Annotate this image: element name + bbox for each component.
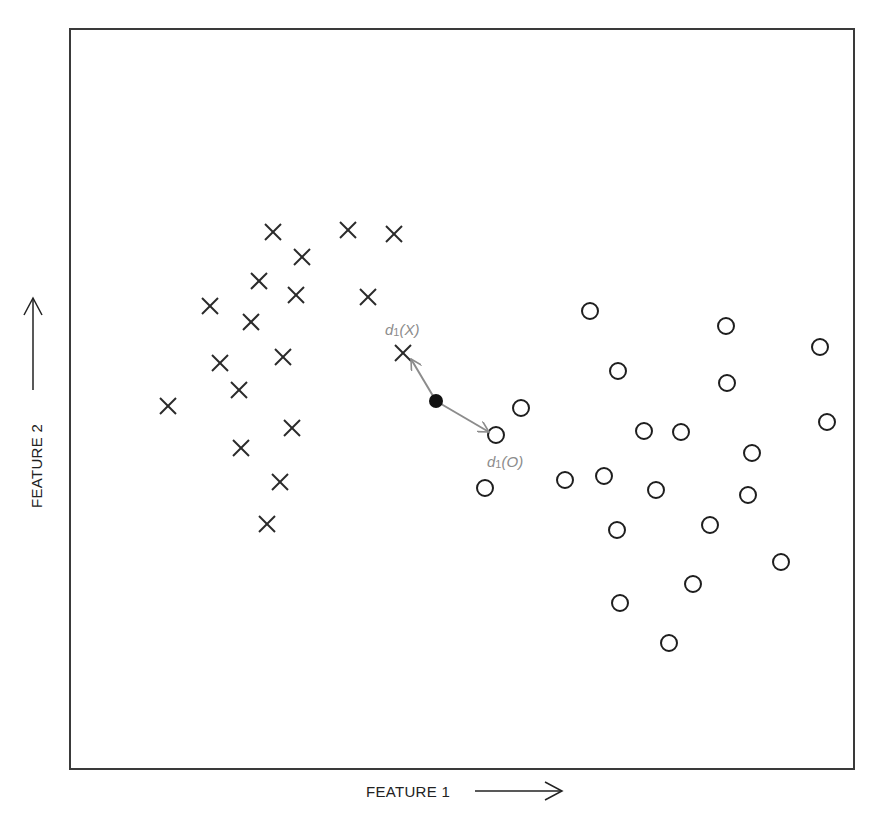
o-marker-icon [773, 554, 789, 570]
o-marker-icon [609, 522, 625, 538]
o-marker-icon [702, 517, 718, 533]
o-marker-icon [740, 487, 756, 503]
x-marker-icon [395, 345, 411, 361]
o-marker-icon [636, 423, 652, 439]
o-marker-icon [718, 318, 734, 334]
o-marker-icon [661, 635, 677, 651]
y-axis-arrow-icon [24, 298, 42, 390]
x-marker-icon [212, 355, 228, 371]
x-class-points [160, 222, 411, 532]
o-marker-icon [719, 375, 735, 391]
x-marker-icon [231, 382, 247, 398]
o-marker-icon [744, 445, 760, 461]
x-marker-icon [272, 474, 288, 490]
o-marker-icon [819, 414, 835, 430]
arrow-to-nearest-x [411, 359, 436, 401]
x-axis-arrow-icon [475, 782, 562, 800]
x-marker-icon [243, 314, 259, 330]
x-marker-icon [340, 222, 356, 238]
distance-arrows [411, 359, 489, 432]
o-marker-icon [488, 427, 504, 443]
scatter-plot: d1(X) d1(O) FEATURE 1 FEATURE 2 [0, 0, 882, 816]
label-d1-o: d1(O) [487, 453, 523, 470]
arrow-to-nearest-o [436, 401, 489, 432]
x-axis-label: FEATURE 1 [366, 783, 450, 800]
x-marker-icon [202, 298, 218, 314]
plot-frame [70, 29, 854, 769]
o-marker-icon [648, 482, 664, 498]
x-marker-icon [386, 226, 402, 242]
x-marker-icon [294, 249, 310, 265]
o-marker-icon [557, 472, 573, 488]
o-marker-icon [477, 480, 493, 496]
o-marker-icon [513, 400, 529, 416]
o-marker-icon [612, 595, 628, 611]
y-axis-label: FEATURE 2 [28, 424, 45, 508]
x-marker-icon [284, 420, 300, 436]
query-point [429, 394, 443, 408]
x-marker-icon [275, 349, 291, 365]
x-marker-icon [265, 224, 281, 240]
o-marker-icon [812, 339, 828, 355]
x-marker-icon [288, 287, 304, 303]
o-marker-icon [596, 468, 612, 484]
o-class-points [477, 303, 835, 651]
x-marker-icon [360, 289, 376, 305]
label-d1-x: d1(X) [385, 321, 419, 338]
x-marker-icon [259, 516, 275, 532]
x-marker-icon [251, 273, 267, 289]
o-marker-icon [673, 424, 689, 440]
o-marker-icon [582, 303, 598, 319]
x-marker-icon [160, 398, 176, 414]
x-marker-icon [233, 440, 249, 456]
o-marker-icon [685, 576, 701, 592]
o-marker-icon [610, 363, 626, 379]
